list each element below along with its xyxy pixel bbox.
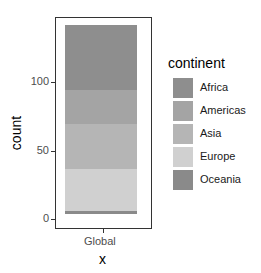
x-tickmark: [103, 229, 104, 233]
legend-key-europe: [173, 147, 193, 167]
x-tick-global: Global: [84, 235, 116, 247]
legend: continent Africa Americas Asia Europe Oc…: [168, 55, 261, 215]
y-tick-50: 50: [37, 144, 49, 156]
y-tickmark: [51, 219, 55, 220]
y-axis-label: count: [8, 113, 24, 153]
legend-key-oceania: [173, 170, 193, 190]
plot-panel: [55, 17, 152, 229]
y-tick-0: 0: [43, 212, 49, 224]
legend-label-africa: Africa: [200, 81, 228, 93]
legend-label-asia: Asia: [200, 127, 221, 139]
bar-segment-asia: [65, 124, 137, 169]
y-tickmark: [51, 82, 55, 83]
legend-label-europe: Europe: [200, 150, 235, 162]
bar-segment-americas: [65, 90, 137, 124]
x-axis-label: x: [99, 251, 106, 267]
legend-label-oceania: Oceania: [200, 173, 241, 185]
bar-segment-europe: [65, 169, 137, 211]
legend-key-africa: [173, 78, 193, 98]
legend-key-americas: [173, 101, 193, 121]
bar-segment-oceania: [65, 211, 137, 214]
bar-segment-africa: [65, 25, 137, 90]
y-tickmark: [51, 151, 55, 152]
chart-root: 100 50 0 Global x count continent Africa…: [0, 0, 261, 273]
legend-title: continent: [168, 55, 225, 71]
y-tick-100: 100: [31, 75, 49, 87]
legend-label-americas: Americas: [200, 104, 246, 116]
legend-key-asia: [173, 124, 193, 144]
